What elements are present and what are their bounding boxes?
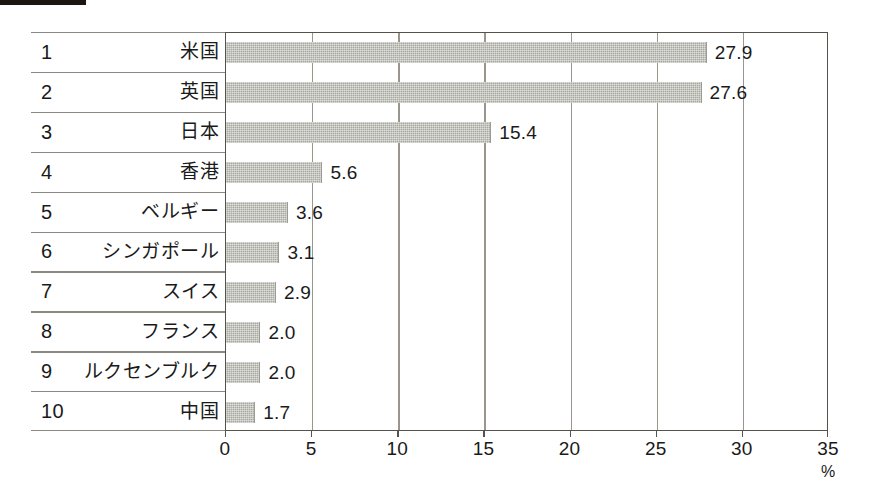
- table-row: 9ルクセンブルク: [31, 351, 225, 391]
- table-row: 8フランス: [31, 311, 225, 351]
- rank-number: 5: [41, 202, 52, 222]
- table-row: 4香港: [31, 152, 225, 192]
- table-row: 7スイス: [31, 271, 225, 311]
- x-axis-tick-mark: [656, 431, 657, 437]
- rank-number: 1: [41, 42, 52, 62]
- rank-number: 6: [41, 241, 52, 261]
- table-row: 1米国: [31, 32, 225, 72]
- country-label: 米国: [180, 42, 219, 61]
- country-label: ルクセンブルク: [84, 362, 220, 381]
- bar-row: 27.6: [226, 73, 747, 113]
- bar-value-label: 2.9: [284, 283, 311, 302]
- country-label: フランス: [141, 322, 219, 341]
- bar: [226, 122, 491, 143]
- x-axis-tick-mark: [570, 431, 571, 437]
- bar: [226, 242, 279, 263]
- table-row: 6シンガポール: [31, 232, 225, 272]
- rank-number: 2: [41, 82, 52, 102]
- bar: [226, 202, 288, 223]
- bar: [226, 282, 276, 303]
- x-axis-tick-label: 15: [473, 439, 495, 458]
- bar: [226, 82, 702, 103]
- country-label: ベルギー: [141, 202, 219, 221]
- bar-row: 15.4: [226, 113, 537, 153]
- bar-value-label: 1.7: [263, 403, 290, 422]
- bar-value-label: 27.9: [715, 43, 753, 62]
- bar-row: 2.0: [226, 352, 295, 392]
- x-axis: 05101520253035%: [225, 431, 828, 483]
- x-axis-tick-label: 35: [817, 439, 839, 458]
- bar-row: 27.9: [226, 33, 752, 73]
- rank-number: 3: [41, 122, 52, 142]
- bar-value-label: 2.0: [268, 363, 295, 382]
- bar-row: 2.9: [226, 272, 311, 312]
- rank-country-table: 1米国2英国3日本4香港5ベルギー6シンガポール7スイス8フランス9ルクセンブル…: [31, 32, 225, 431]
- bar-value-label: 5.6: [330, 163, 357, 182]
- country-label: 日本: [180, 122, 219, 141]
- x-axis-tick-mark: [311, 431, 312, 437]
- x-axis-unit-label: %: [821, 464, 835, 480]
- x-axis-tick-mark: [827, 431, 828, 437]
- bar-row: 5.6: [226, 153, 357, 193]
- rank-number: 4: [41, 162, 52, 182]
- bar-row: 2.0: [226, 312, 295, 352]
- bar-value-label: 3.6: [296, 203, 323, 222]
- bar: [226, 402, 255, 423]
- x-axis-tick-label: 20: [559, 439, 581, 458]
- bar: [226, 322, 260, 343]
- country-label: シンガポール: [102, 242, 219, 261]
- table-row: 10中国: [31, 391, 225, 431]
- x-axis-tick-label: 0: [220, 439, 231, 458]
- x-axis-tick-mark: [397, 431, 398, 437]
- x-axis-tick-label: 5: [306, 439, 317, 458]
- bar-value-label: 15.4: [499, 123, 537, 142]
- x-axis-tick-label: 10: [387, 439, 409, 458]
- table-row: 5ベルギー: [31, 192, 225, 232]
- country-label: 香港: [180, 162, 219, 181]
- rank-number: 7: [41, 281, 52, 301]
- plot-area: 27.927.615.45.63.63.12.92.02.01.7: [225, 32, 828, 431]
- x-axis-tick-label: 25: [645, 439, 667, 458]
- rank-number: 9: [41, 361, 52, 381]
- bar-row: 3.6: [226, 193, 323, 233]
- country-label: 中国: [180, 402, 219, 421]
- x-axis-tick-mark: [225, 431, 226, 437]
- bar: [226, 162, 322, 183]
- bar-value-label: 2.0: [268, 323, 295, 342]
- bar-value-label: 27.6: [710, 83, 748, 102]
- horizontal-bar-chart: 1米国2英国3日本4香港5ベルギー6シンガポール7スイス8フランス9ルクセンブル…: [0, 0, 873, 483]
- x-axis-tick-mark: [483, 431, 484, 437]
- bar: [226, 42, 707, 63]
- table-row-divider: [31, 430, 225, 431]
- x-axis-tick-label: 30: [731, 439, 753, 458]
- table-row: 3日本: [31, 112, 225, 152]
- rank-number: 10: [41, 401, 64, 421]
- country-label: 英国: [180, 82, 219, 101]
- rank-number: 8: [41, 321, 52, 341]
- bar-row: 1.7: [226, 392, 290, 432]
- bar-value-label: 3.1: [287, 243, 314, 262]
- x-axis-tick-mark: [742, 431, 743, 437]
- bar-row: 3.1: [226, 233, 314, 273]
- country-label: スイス: [162, 282, 220, 301]
- bar: [226, 362, 260, 383]
- table-row: 2英国: [31, 72, 225, 112]
